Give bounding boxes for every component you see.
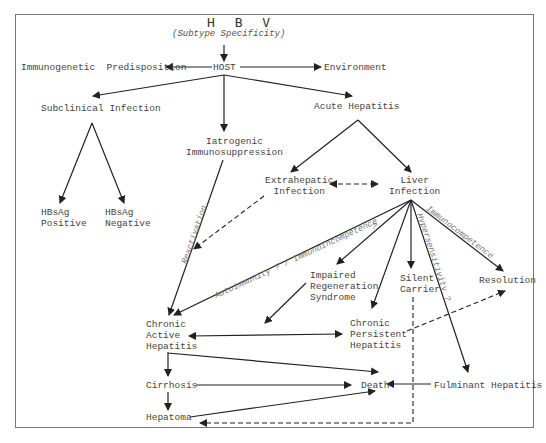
node-extrahepatic-infection: Extrahepatic Infection [265,175,333,197]
node-death: Death [361,380,390,391]
node-subclinical-infection: Subclinical Infection [41,103,161,114]
node-chronic-active-hepatitis: Chronic Active Hepatitis [146,319,197,352]
node-host: HOST [213,62,236,73]
node-impaired-regeneration-syndrome: Impaired Regeneration Syndrome [310,270,378,303]
node-immunogenetic-predisposition: Immunogenetic Predisposition [21,62,186,73]
node-acute-hepatitis: Acute Hepatitis [314,101,400,112]
diagram-title: H B V [207,15,276,30]
node-hepatoma: Hepatoma [146,412,192,423]
diagram-subtitle: (Subtype Specificity) [172,29,285,39]
edge-label-question: ? [372,222,377,232]
node-resolution: Resolution [479,275,536,286]
node-hbsag-negative: HBsAg Negative [105,207,151,229]
node-fulminant-hepatitis: Fulminant Hepatitis [434,380,542,391]
node-environment: Environment [324,62,387,73]
node-iatrogenic-immunosuppression: Iatrogenic Immunosuppression [186,136,283,158]
node-cirrhosis: Cirrhosis [146,380,197,391]
node-chronic-persistent-hepatitis: Chronic Persistent Hepatitis [350,318,407,351]
node-liver-infection: Liver Infection [389,175,440,197]
node-hbsag-positive: HBsAg Positive [41,207,87,229]
